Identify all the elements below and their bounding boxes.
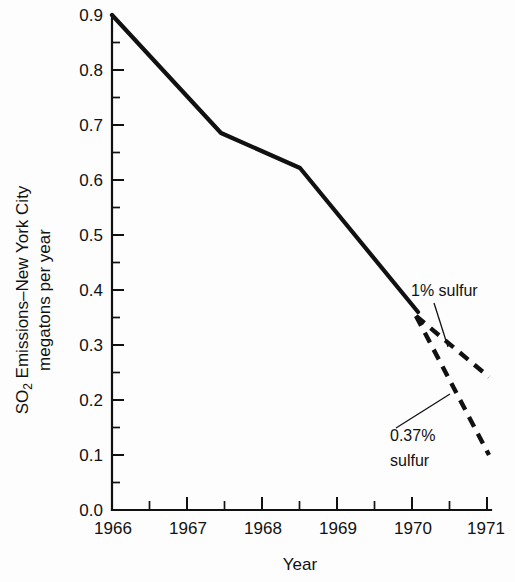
y-tick-label: 0.0 [79, 501, 103, 520]
x-tick-label: 1968 [244, 519, 282, 538]
y-axis-title-line1: SO2 Emissions–New York City [13, 185, 35, 414]
y-tick-label: 0.9 [79, 6, 103, 25]
so2-emissions-line-chart: 0.0 0.1 0.2 0.3 0.4 0.5 0.6 0.7 0.8 0.9 [0, 0, 515, 582]
x-tick-label: 1967 [169, 519, 207, 538]
annotation-037-percent-sulfur-leader [396, 394, 450, 428]
y-axis-title-line2: megatons per year [35, 229, 54, 371]
x-tick-label: 1971 [467, 519, 505, 538]
y-axis-title-so: SO [13, 390, 32, 415]
y-tick-label: 0.6 [79, 171, 103, 190]
x-tick-label: 1969 [319, 519, 357, 538]
x-axis-ticks [112, 497, 487, 510]
y-axis-title-rest: Emissions–New York City [13, 185, 32, 383]
x-tick-label: 1966 [94, 519, 132, 538]
x-axis-tick-labels: 1966 1967 1968 1969 1970 1971 [94, 519, 505, 538]
y-tick-label: 0.8 [79, 61, 103, 80]
y-tick-label: 0.5 [79, 226, 103, 245]
annotation-1-percent-sulfur-leader [434, 303, 448, 347]
annotation-1-percent-sulfur-label: 1% sulfur [411, 282, 478, 299]
x-tick-label: 1970 [394, 519, 432, 538]
annotation-037-percent-sulfur-label-line2: sulfur [390, 452, 430, 469]
y-axis-title: SO2 Emissions–New York City megatons per… [13, 185, 54, 414]
y-axis-ticks [112, 43, 124, 511]
y-tick-label: 0.2 [79, 391, 103, 410]
data-series [112, 15, 489, 455]
x-axis-title: Year [283, 555, 318, 574]
y-tick-label: 0.7 [79, 116, 103, 135]
annotation-037-percent-sulfur-label-line1: 0.37% [390, 427, 435, 444]
series-1-percent-sulfur [416, 316, 489, 377]
y-tick-label: 0.1 [79, 446, 103, 465]
chart-container: 0.0 0.1 0.2 0.3 0.4 0.5 0.6 0.7 0.8 0.9 [0, 0, 515, 582]
y-axis-tick-labels: 0.0 0.1 0.2 0.3 0.4 0.5 0.6 0.7 0.8 0.9 [79, 6, 103, 520]
annotations: 1% sulfur 0.37% sulfur [390, 282, 478, 469]
y-tick-label: 0.3 [79, 336, 103, 355]
series-historical [112, 15, 418, 312]
y-tick-label: 0.4 [79, 281, 103, 300]
